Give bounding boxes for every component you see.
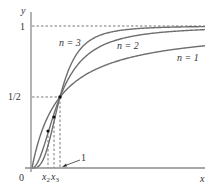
x3-label: x3 xyxy=(50,171,59,184)
pointer-arrowhead-icon xyxy=(62,164,67,168)
curve-label-n2: n = 2 xyxy=(117,40,139,51)
curve-label-n1: n = 1 xyxy=(177,52,199,63)
y-axis-label: y xyxy=(20,5,26,16)
point-x3 xyxy=(52,115,55,118)
x2-label: x2 xyxy=(41,171,50,184)
y-tick-one: 1 xyxy=(20,21,25,32)
intersection-point xyxy=(58,95,62,99)
point-x2 xyxy=(46,129,49,132)
pointer-label-one: 1 xyxy=(81,152,86,163)
y-tick-half: 1/2 xyxy=(8,91,21,102)
x-axis-label: x xyxy=(199,173,205,184)
curve-family-chart: y 1 1/2 0 x x2 x3 1 n = 3 n = 2 n = 1 xyxy=(0,0,221,188)
origin-label: 0 xyxy=(19,172,24,183)
curve-label-n3: n = 3 xyxy=(59,37,81,48)
